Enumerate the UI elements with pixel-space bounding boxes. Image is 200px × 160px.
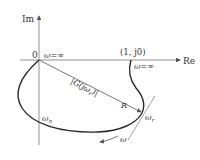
origin-label: 0 xyxy=(32,50,38,60)
omega-r-label: ωr xyxy=(145,113,155,123)
nyquist-curve xyxy=(18,60,144,132)
critical-point-label: (1, j0) xyxy=(120,47,146,57)
radius-label: R xyxy=(120,101,127,110)
omega-direction-label: ω xyxy=(120,135,127,144)
imag-axis-label: Im xyxy=(22,14,35,24)
direction-arrow xyxy=(100,136,118,142)
omega-inf-critical-label: ω=∞ xyxy=(134,62,154,71)
svg-text:|G(jωr)|: |G(jωr)| xyxy=(69,77,100,99)
omega-inf-origin-label: ω=∞ xyxy=(44,51,64,60)
magnitude-label: |G(jωr)| xyxy=(69,77,100,99)
real-axis-label: Re xyxy=(183,56,195,66)
omega-n-label: ωn xyxy=(42,114,53,124)
nyquist-diagram: Im Re 0 ω=∞ (1, j0) ω=∞ |G(jωr)| R ωn ωr… xyxy=(0,0,200,160)
